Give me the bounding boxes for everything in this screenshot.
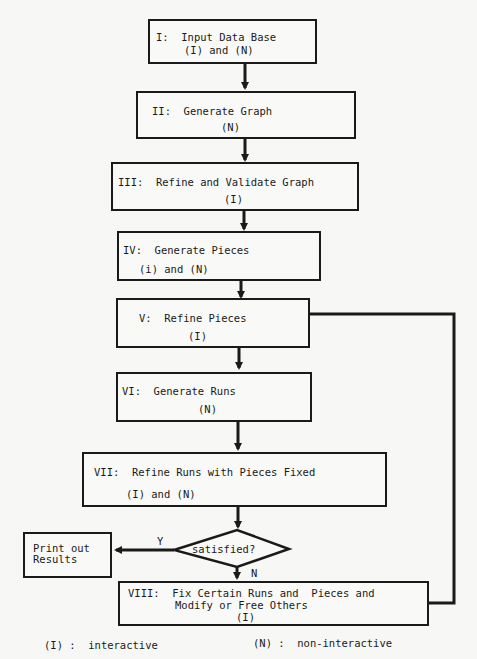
step-viii-box: VIII: Fix Certain Runs and Pieces and Mo… [118, 581, 429, 626]
step-iv-box: IV: Generate Pieces (i) and (N) [117, 231, 321, 281]
step-ii-box: II: Generate Graph (N) [136, 91, 356, 139]
step-ii-mode: (N) [221, 121, 240, 133]
step-v-box: V: Refine Pieces (I) [116, 298, 310, 348]
step-vii-box: VII: Refine Runs with Pieces Fixed (I) a… [82, 452, 387, 507]
step-v-title: V: Refine Pieces [139, 312, 246, 324]
step-iv-mode: (i) and (N) [139, 263, 209, 275]
yes-branch-label: Y [157, 535, 163, 547]
step-vii-title: VII: Refine Runs with Pieces Fixed [94, 466, 315, 478]
legend-non-interactive: (N) : non-interactive [253, 637, 392, 649]
no-branch-label: N [251, 567, 257, 579]
print-results-line2: Results [33, 553, 77, 565]
step-iii-mode: (I) [224, 193, 243, 205]
step-viii-subtitle: Modify or Free Others [175, 599, 308, 611]
step-vi-title: VI: Generate Runs [122, 385, 236, 397]
step-i-title: I: Input Data Base [156, 31, 276, 43]
step-i-box: I: Input Data Base (I) and (N) [148, 19, 317, 64]
step-vi-box: VI: Generate Runs (N) [116, 372, 312, 422]
step-i-mode: (I) and (N) [184, 44, 254, 56]
step-iv-title: IV: Generate Pieces [123, 244, 249, 256]
step-viii-mode: (I) [236, 611, 255, 623]
step-v-mode: (I) [188, 330, 207, 342]
decision-label: satisfied? [192, 543, 255, 555]
print-results-box: Print out Results [23, 532, 112, 578]
step-iii-box: III: Refine and Validate Graph (I) [111, 162, 359, 211]
step-viii-title: VIII: Fix Certain Runs and Pieces and [128, 587, 375, 599]
legend-interactive: (I) : interactive [44, 639, 158, 651]
step-vi-mode: (N) [198, 403, 217, 415]
step-iii-title: III: Refine and Validate Graph [118, 176, 314, 188]
step-ii-title: II: Generate Graph [152, 105, 272, 117]
step-vii-mode: (I) and (N) [126, 488, 196, 500]
